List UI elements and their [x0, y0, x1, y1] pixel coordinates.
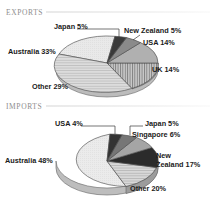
imports-label-usa: USA 4%	[55, 120, 83, 129]
imports-pie-slices	[76, 134, 158, 186]
exports-label-usa: USA 14%	[143, 39, 175, 48]
imports-label-singapore: Singapore 6%	[132, 131, 180, 140]
imports-chart-panel: IMPORTS	[0, 100, 214, 205]
imports-pie-graphic	[0, 100, 214, 205]
exports-label-uk: UK 14%	[152, 66, 179, 75]
imports-label-other: Other 20%	[130, 185, 166, 194]
imports-label-australia: Australia 48%	[5, 157, 53, 166]
exports-leader-line-new-zealand	[133, 35, 140, 40]
exports-label-australia: Australia 33%	[8, 48, 56, 57]
imports-leader-line-usa	[81, 126, 115, 134]
exports-label-other: Other 29%	[32, 83, 68, 92]
imports-label-japan: Japan 5%	[145, 120, 179, 129]
imports-label-new-zealand-line2: Zealand 17%	[156, 161, 200, 170]
exports-label-japan: Japan 5%	[54, 23, 88, 32]
exports-chart-panel: EXPORTS	[0, 0, 214, 100]
exports-label-new-zealand: New Zealand 5%	[124, 27, 181, 36]
